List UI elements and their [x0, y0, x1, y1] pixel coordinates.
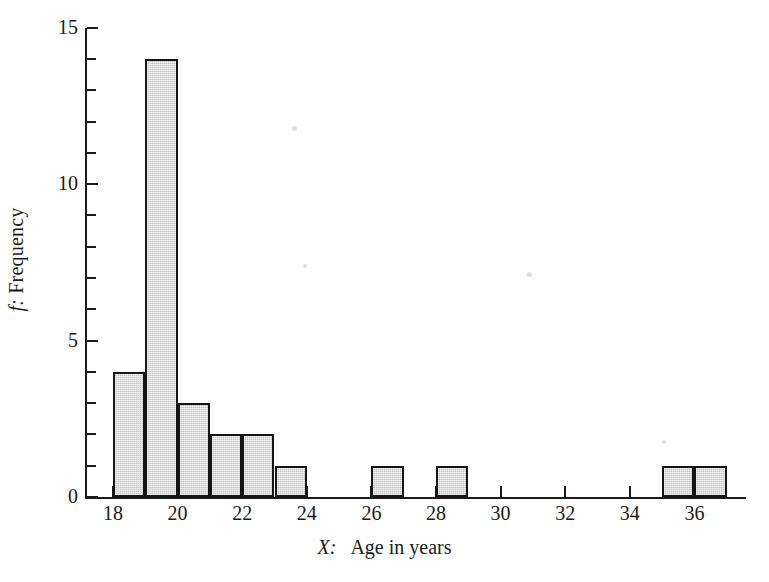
histogram-bar: [242, 434, 274, 497]
y-axis-tick-minor: [87, 121, 96, 123]
histogram-bar: [210, 434, 242, 497]
histogram-bar: [275, 466, 307, 497]
x-axis-title-text: Age in years: [350, 536, 451, 558]
x-axis-tick-label: 32: [535, 502, 595, 524]
y-axis-tick-minor: [87, 465, 96, 467]
y-axis-tick-minor: [87, 58, 96, 60]
x-axis-line: [85, 497, 746, 499]
x-axis-title: X:Age in years: [0, 536, 769, 559]
x-axis-tick-label: 28: [406, 502, 466, 524]
y-axis-tick-major: [87, 340, 98, 342]
x-axis-tick: [500, 486, 502, 497]
x-axis-tick-label: 18: [83, 502, 143, 524]
x-axis-title-symbol: X:: [318, 536, 337, 558]
y-axis-title: f: Frequency: [5, 170, 28, 350]
y-axis-line: [85, 28, 87, 499]
y-axis-tick-minor: [87, 152, 96, 154]
x-axis-tick-label: 20: [148, 502, 208, 524]
histogram-bar: [113, 372, 145, 497]
scan-speck: [303, 264, 307, 268]
x-axis-tick-label: 36: [664, 502, 724, 524]
y-axis-tick-minor: [87, 277, 96, 279]
y-axis-tick-minor: [87, 214, 96, 216]
y-axis-tick-label: 15: [38, 17, 78, 37]
y-axis-title-text: Frequency: [5, 207, 27, 293]
y-axis-tick-minor: [87, 433, 96, 435]
x-axis-tick: [629, 486, 631, 497]
y-axis-tick-label: 10: [38, 173, 78, 193]
histogram-bar: [694, 466, 726, 497]
x-axis-tick: [564, 486, 566, 497]
histogram-bar: [145, 59, 177, 497]
x-axis-tick-label: 30: [471, 502, 531, 524]
y-axis-tick-minor: [87, 89, 96, 91]
y-axis-tick-minor: [87, 371, 96, 373]
x-axis-tick-label: 34: [600, 502, 660, 524]
y-axis-tick-minor: [87, 246, 96, 248]
y-axis-tick-major: [87, 27, 98, 29]
histogram-bar: [662, 466, 694, 497]
x-axis-tick-label: 24: [277, 502, 337, 524]
x-axis-tick-label: 22: [212, 502, 272, 524]
histogram-bar: [178, 403, 210, 497]
y-axis-tick-minor: [87, 308, 96, 310]
histogram-bar: [371, 466, 403, 497]
y-axis-tick-minor: [87, 402, 96, 404]
scan-speck: [527, 272, 532, 277]
histogram-figure: f: Frequency 05101518202224262830323436 …: [0, 0, 769, 582]
y-axis-tick-label: 0: [38, 486, 78, 506]
scan-speck: [292, 126, 297, 131]
y-axis-tick-major: [87, 183, 98, 185]
y-axis-tick-major: [87, 496, 98, 498]
histogram-bar: [436, 466, 468, 497]
x-axis-tick-label: 26: [341, 502, 401, 524]
y-axis-tick-label: 5: [38, 330, 78, 350]
scan-speck: [662, 440, 666, 444]
y-axis-title-symbol: f:: [5, 299, 27, 312]
